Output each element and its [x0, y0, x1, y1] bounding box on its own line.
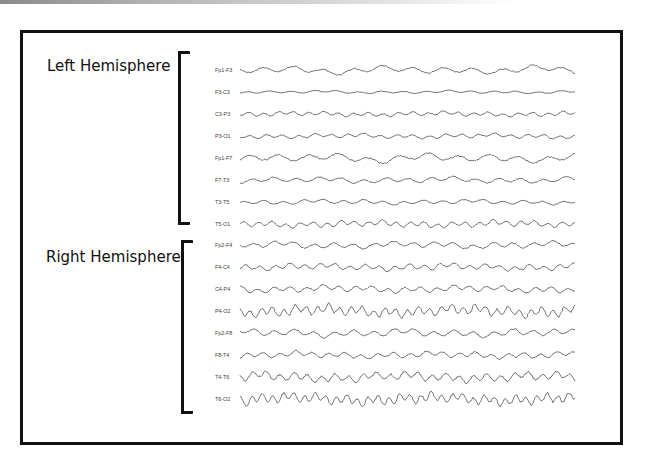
eeg-trace [240, 153, 575, 164]
eeg-trace [240, 350, 575, 359]
eeg-trace [240, 263, 575, 272]
eeg-trace [240, 199, 575, 205]
eeg-trace [240, 240, 575, 249]
eeg-trace [240, 219, 575, 228]
eeg-trace [240, 371, 575, 384]
eeg-trace [240, 133, 575, 139]
eeg-trace [240, 65, 575, 76]
eeg-traces [0, 0, 646, 467]
eeg-trace [240, 328, 575, 338]
eeg-trace [240, 111, 575, 117]
eeg-trace [240, 176, 575, 184]
eeg-trace [240, 90, 575, 94]
eeg-trace [240, 392, 575, 407]
eeg-trace [240, 284, 575, 293]
eeg-trace [240, 303, 575, 319]
